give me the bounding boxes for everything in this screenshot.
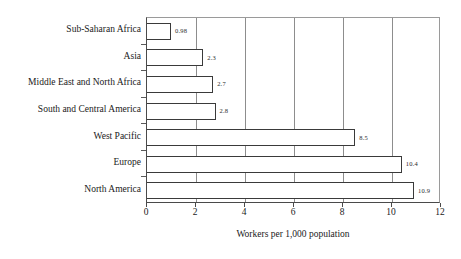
bar-row: 0.98 <box>147 23 441 40</box>
x-axis-tick-label: 12 <box>435 208 445 218</box>
y-axis-tick <box>141 70 146 71</box>
x-axis-tick-label: 6 <box>291 208 296 218</box>
bar-value-label: 2.3 <box>207 55 216 62</box>
bar[interactable] <box>147 182 414 199</box>
bar-row: 2.8 <box>147 103 441 120</box>
y-axis-tick <box>141 97 146 98</box>
bar[interactable] <box>147 23 171 40</box>
bar-value-label: 2.8 <box>220 108 229 115</box>
bar[interactable] <box>147 49 203 66</box>
plot-area: 0.982.32.72.88.510.410.9 <box>146 17 440 203</box>
bar[interactable] <box>147 156 402 173</box>
category-label: Europe <box>1 158 141 168</box>
bar[interactable] <box>147 103 216 120</box>
category-label: Asia <box>1 52 141 62</box>
category-label: South and Central America <box>1 105 141 115</box>
x-axis-tick-label: 2 <box>193 208 198 218</box>
category-label: Middle East and North Africa <box>1 78 141 88</box>
bar-row: 10.9 <box>147 182 441 199</box>
category-label: Sub-Saharan Africa <box>1 25 141 35</box>
bar-row: 2.7 <box>147 76 441 93</box>
y-axis-tick <box>141 150 146 151</box>
y-axis-tick <box>141 44 146 45</box>
bar-value-label: 8.5 <box>359 134 368 141</box>
category-label: North America <box>1 185 141 195</box>
x-axis-tick-label: 8 <box>340 208 345 218</box>
y-axis-tick <box>141 176 146 177</box>
category-label: West Pacific <box>1 132 141 142</box>
category-axis-labels: Sub-Saharan AfricaAsiaMiddle East and No… <box>0 17 141 203</box>
bar-chart: Sub-Saharan AfricaAsiaMiddle East and No… <box>0 0 461 259</box>
x-axis-tick-label: 0 <box>144 208 149 218</box>
bar-value-label: 10.9 <box>418 187 430 194</box>
bar[interactable] <box>147 76 213 93</box>
y-axis-tick <box>141 123 146 124</box>
x-axis-tick-label: 10 <box>386 208 396 218</box>
x-axis-title: Workers per 1,000 population <box>146 230 440 240</box>
bar-row: 2.3 <box>147 49 441 66</box>
x-axis-tick-label: 4 <box>242 208 247 218</box>
bar-row: 8.5 <box>147 129 441 146</box>
bar-value-label: 10.4 <box>406 161 418 168</box>
bar-row: 10.4 <box>147 156 441 173</box>
bar-value-label: 2.7 <box>217 81 226 88</box>
bar[interactable] <box>147 129 355 146</box>
bar-value-label: 0.98 <box>175 28 187 35</box>
